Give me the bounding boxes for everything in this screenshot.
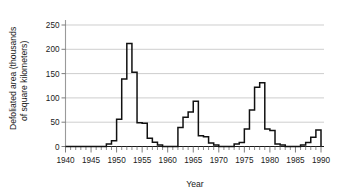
x-axis-major-ticks	[66, 147, 322, 153]
defoliated-area-step-line	[66, 43, 322, 146]
x-tick-label-1965: 1965	[184, 156, 203, 165]
y-axis-title-line1: Defoliated area (thousands	[8, 27, 18, 130]
y-tick-label-150: 150	[46, 70, 60, 79]
x-axis-title: Year	[186, 179, 204, 189]
x-tick-label-1950: 1950	[107, 156, 126, 165]
y-tick-label-50: 50	[50, 118, 60, 127]
x-tick-label-1945: 1945	[82, 156, 101, 165]
y-tick-label-200: 200	[46, 45, 60, 54]
x-tick-label-1960: 1960	[159, 156, 178, 165]
x-axis-tick-labels: 1940194519501955196019651970197519801985…	[56, 156, 330, 165]
x-tick-label-1980: 1980	[261, 156, 280, 165]
x-tick-label-1955: 1955	[133, 156, 152, 165]
gridlines	[66, 25, 325, 122]
x-tick-label-1940: 1940	[56, 156, 75, 165]
y-tick-label-0: 0	[55, 143, 60, 152]
x-tick-label-1985: 1985	[286, 156, 305, 165]
defoliated-area-step-chart: 050100150200250 194019451950195519601965…	[0, 0, 337, 195]
chart-figure: 050100150200250 194019451950195519601965…	[0, 0, 337, 195]
x-tick-label-1970: 1970	[210, 156, 229, 165]
y-axis-ticks	[62, 25, 66, 147]
y-tick-label-250: 250	[46, 21, 60, 30]
y-tick-label-100: 100	[46, 94, 60, 103]
x-tick-label-1975: 1975	[235, 156, 254, 165]
y-axis-title-line2: of square kilometers)	[19, 41, 29, 121]
x-tick-label-1990: 1990	[312, 156, 331, 165]
y-axis-tick-labels: 050100150200250	[46, 21, 60, 152]
